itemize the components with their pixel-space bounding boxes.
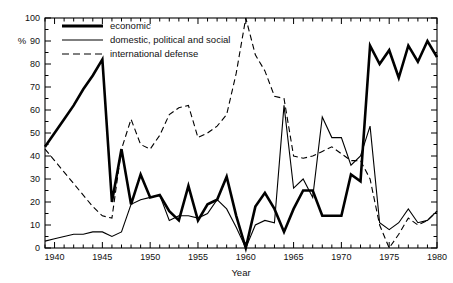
legend: economic domestic, political and social …	[62, 20, 230, 59]
y-axis-tick-labels: 0102030405060708090100	[25, 13, 40, 253]
data-series-layer	[45, 18, 437, 248]
x-axis-tick-labels: 194019451950195519601965197019751980	[45, 252, 447, 262]
y-tick-label: 80	[30, 59, 40, 69]
chart-svg: 0102030405060708090100 19401945195019551…	[0, 0, 453, 283]
legend-label-domestic: domestic, political and social	[110, 34, 230, 45]
x-tick-label: 1965	[284, 252, 304, 262]
y-tick-label: 100	[25, 13, 40, 23]
x-tick-label: 1980	[427, 252, 447, 262]
series-line-domestic	[45, 105, 437, 248]
x-tick-label: 1960	[236, 252, 256, 262]
y-axis-title: %	[18, 35, 27, 46]
x-tick-label: 1940	[45, 252, 65, 262]
x-tick-label: 1945	[92, 252, 112, 262]
y-tick-label: 0	[35, 243, 40, 253]
line-chart: 0102030405060708090100 19401945195019551…	[0, 0, 453, 283]
y-tick-label: 90	[30, 36, 40, 46]
y-tick-label: 40	[30, 151, 40, 161]
y-tick-label: 10	[30, 220, 40, 230]
x-axis-title: Year	[231, 267, 250, 278]
legend-label-international: international defense	[110, 48, 198, 59]
y-tick-label: 70	[30, 82, 40, 92]
y-tick-label: 50	[30, 128, 40, 138]
legend-label-economic: economic	[110, 20, 151, 31]
x-tick-label: 1955	[188, 252, 208, 262]
x-tick-label: 1970	[331, 252, 351, 262]
y-tick-label: 30	[30, 174, 40, 184]
y-tick-label: 20	[30, 197, 40, 207]
x-tick-label: 1975	[379, 252, 399, 262]
x-tick-label: 1950	[140, 252, 160, 262]
y-tick-label: 60	[30, 105, 40, 115]
